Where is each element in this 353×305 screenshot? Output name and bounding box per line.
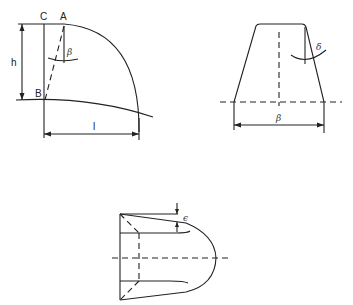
dashed-line-ab: [45, 26, 64, 100]
label-epsilon: ϵ: [183, 213, 188, 223]
diagram-top-right: δ β: [220, 24, 342, 133]
arrow-down-icon: [20, 93, 25, 100]
arrow-up-icon: [175, 222, 179, 227]
bottom-curve: [16, 99, 153, 117]
arrow-left-icon: [44, 132, 51, 137]
dashed-diagonal-bottom: [120, 281, 139, 300]
label-c: C: [40, 11, 47, 22]
outer-arc: [64, 24, 139, 132]
technical-diagram: C A B h l β δ β: [0, 0, 353, 305]
inner-top-line: [120, 231, 190, 233]
label-beta: β: [66, 47, 72, 57]
nose-outline: [120, 214, 216, 300]
arrow-down-icon: [175, 209, 179, 214]
angle-arc-beta: [48, 58, 78, 61]
label-delta: δ: [316, 42, 321, 52]
label-beta-width: β: [275, 113, 281, 123]
arrow-left-icon: [234, 123, 241, 128]
diagram-bottom: ϵ: [112, 203, 232, 300]
arrow-right-icon: [317, 123, 324, 128]
diagram-top-left: C A B h l β: [11, 11, 153, 140]
dashed-diagonal-top: [120, 214, 139, 233]
label-l: l: [93, 121, 95, 132]
label-b: B: [35, 88, 42, 99]
arrow-up-icon: [20, 24, 25, 31]
inner-bottom-line: [120, 281, 188, 283]
arrow-right-icon: [132, 132, 139, 137]
label-a: A: [60, 11, 67, 22]
label-h: h: [11, 57, 17, 68]
